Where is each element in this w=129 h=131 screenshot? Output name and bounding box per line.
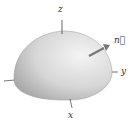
x-axis (70, 99, 72, 108)
normal-vector-label: n⃗ (114, 36, 125, 45)
x-axis-label: x (68, 111, 73, 120)
hemisphere-surface (14, 31, 112, 100)
negative-y-axis (4, 80, 15, 81)
y-axis-label: y (121, 67, 126, 76)
z-axis-label: z (58, 5, 63, 14)
hemisphere-diagram (0, 0, 129, 131)
